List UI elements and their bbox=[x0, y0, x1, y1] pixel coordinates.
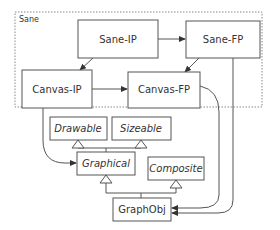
node-label: Sizeable bbox=[120, 123, 162, 134]
inheritance-triangle-icon bbox=[100, 175, 112, 183]
node-sane-ip[interactable]: Sane-IP bbox=[78, 20, 158, 58]
edge-sanefp-canvasfp bbox=[185, 58, 199, 72]
edge-saneip-canvasip bbox=[80, 58, 93, 70]
inheritance-triangle-icon bbox=[135, 140, 147, 148]
inheritance-graphical bbox=[72, 140, 147, 152]
node-composite[interactable]: Composite bbox=[148, 157, 204, 180]
class-diagram: Sane Sane-IP San bbox=[0, 0, 280, 230]
node-graphical[interactable]: Graphical bbox=[77, 152, 135, 175]
node-label: Sane-IP bbox=[99, 34, 137, 45]
node-drawable[interactable]: Drawable bbox=[50, 117, 107, 140]
inheritance-triangle-icon bbox=[72, 140, 84, 148]
node-graphobj[interactable]: GraphObj bbox=[113, 198, 171, 221]
node-sizeable[interactable]: Sizeable bbox=[112, 117, 171, 140]
node-sane-fp[interactable]: Sane-FP bbox=[186, 21, 260, 58]
node-label: GraphObj bbox=[118, 204, 166, 215]
frame-label: Sane bbox=[19, 15, 39, 24]
node-label: Canvas-FP bbox=[138, 84, 190, 95]
node-canvas-fp[interactable]: Canvas-FP bbox=[128, 72, 200, 108]
inheritance-triangle-icon bbox=[170, 180, 182, 188]
node-canvas-ip[interactable]: Canvas-IP bbox=[22, 70, 92, 108]
node-label: Graphical bbox=[82, 158, 130, 169]
node-label: Sane-FP bbox=[203, 34, 243, 45]
node-label: Canvas-IP bbox=[32, 84, 81, 95]
node-label: Drawable bbox=[54, 123, 102, 134]
node-label: Composite bbox=[149, 163, 202, 174]
